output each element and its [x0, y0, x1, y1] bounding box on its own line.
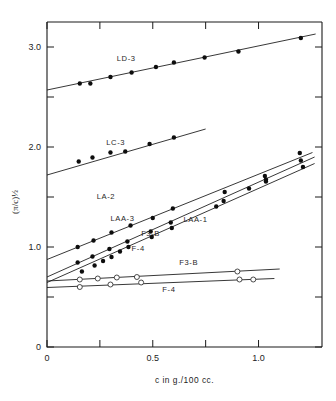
inline-label: F3-B [141, 229, 160, 238]
data-point [172, 135, 176, 139]
data-point [109, 255, 113, 259]
data-point [134, 275, 139, 280]
data-point [108, 150, 112, 154]
y-tick-label: 0 [36, 342, 41, 352]
x-tick-label: 0 [44, 353, 49, 363]
data-point [128, 223, 132, 227]
chart-canvas: 01.02.03.000.51.0 LD-3LC-3LA-2LAA-3LAA-1… [0, 0, 336, 401]
data-point [77, 285, 82, 290]
data-point [90, 254, 94, 258]
data-point [75, 245, 79, 249]
data-point [75, 260, 79, 264]
data-point [91, 238, 95, 242]
data-point [298, 151, 302, 155]
data-point [236, 49, 240, 53]
data-point [237, 277, 242, 282]
chart-background [0, 0, 336, 401]
data-point [77, 159, 81, 163]
data-point [92, 263, 96, 267]
series-label-f3-b: F3-B [179, 258, 198, 267]
osmotic-pressure-chart: 01.02.03.000.51.0 LD-3LC-3LA-2LAA-3LAA-1… [0, 0, 336, 401]
data-point [170, 226, 174, 230]
data-point [222, 190, 226, 194]
data-point [171, 206, 175, 210]
data-point [90, 155, 94, 159]
series-label-laa-3: LAA-3 [110, 214, 134, 223]
data-point [95, 276, 100, 281]
series-label-lc-3: LC-3 [106, 138, 125, 147]
data-point [101, 259, 105, 263]
data-point [114, 275, 119, 280]
y-axis-title: (π/c)½ [2, 172, 28, 232]
series-label-ld-3: LD-3 [117, 54, 136, 63]
data-point [108, 282, 113, 287]
data-point [221, 199, 225, 203]
data-point [147, 142, 151, 146]
data-point [109, 230, 113, 234]
data-point [77, 277, 82, 282]
data-point [251, 277, 256, 282]
data-point [264, 179, 268, 183]
data-point [169, 220, 173, 224]
data-point [139, 280, 144, 285]
data-point [129, 70, 133, 74]
data-point [108, 75, 112, 79]
data-point [126, 245, 130, 249]
data-point [299, 36, 303, 40]
data-point [125, 239, 129, 243]
data-point [172, 60, 176, 64]
data-point [107, 247, 111, 251]
series-label-f-4: F-4 [162, 285, 175, 294]
data-point [80, 269, 84, 273]
series-label-la-2: LA-2 [97, 192, 115, 201]
x-tick-label: 0.5 [147, 353, 160, 363]
data-point [88, 81, 92, 85]
data-point [247, 186, 251, 190]
data-point [123, 149, 127, 153]
inline-label: F-4 [132, 244, 145, 253]
x-tick-label: 1.0 [252, 353, 265, 363]
y-tick-label: 1.0 [28, 242, 41, 252]
y-tick-label: 2.0 [28, 142, 41, 152]
y-tick-label: 3.0 [28, 42, 41, 52]
data-point [151, 216, 155, 220]
data-point [154, 65, 158, 69]
series-label-laa-1: LAA-1 [183, 215, 207, 224]
data-point [202, 55, 206, 59]
data-point [301, 165, 305, 169]
data-point [235, 269, 240, 274]
data-point [214, 204, 218, 208]
data-point [299, 158, 303, 162]
x-axis-title: c in g./100 cc. [155, 375, 214, 385]
data-point [118, 249, 122, 253]
data-point [78, 81, 82, 85]
